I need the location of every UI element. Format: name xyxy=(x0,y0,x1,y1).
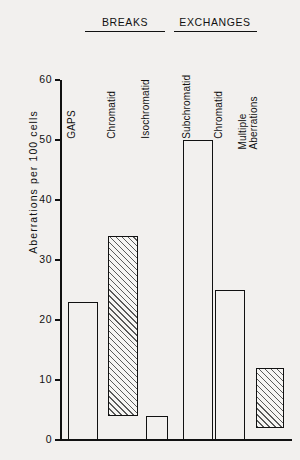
column-label-4: Chromatid xyxy=(214,91,225,139)
group-header-exchanges-label: EXCHANGES xyxy=(172,16,258,28)
y-tick-0 xyxy=(55,439,60,441)
column-label-1-line1: Chromatid xyxy=(106,91,117,139)
column-label-2-line1: Isochromatid xyxy=(140,79,151,139)
column-label-3: Subchromatid xyxy=(182,75,193,139)
y-tick-50 xyxy=(55,139,60,141)
column-label-4-line1: Chromatid xyxy=(213,91,224,139)
y-tick-label-30: 30 xyxy=(22,253,52,265)
group-rule-breaks xyxy=(85,31,165,32)
group-header-breaks-label: BREAKS xyxy=(85,16,165,28)
y-tick-30 xyxy=(55,259,60,261)
column-label-1: Chromatid xyxy=(107,91,118,139)
y-tick-label-0: 0 xyxy=(22,433,52,445)
y-tick-label-40: 40 xyxy=(22,193,52,205)
bar-1-hatched-segment xyxy=(108,236,138,416)
y-axis-title: Aberrations per 100 cells xyxy=(27,87,39,277)
bar-2 xyxy=(146,416,168,440)
y-tick-label-60: 60 xyxy=(22,73,52,85)
chart-figure: BREAKS EXCHANGES Aberrations per 100 cel… xyxy=(0,0,300,460)
bar-3 xyxy=(183,140,213,440)
y-tick-label-20: 20 xyxy=(22,313,52,325)
y-tick-10 xyxy=(55,379,60,381)
group-header-breaks: BREAKS xyxy=(85,16,165,28)
column-label-5-line1: Multiple xyxy=(237,114,248,150)
column-label-0-line1: GAPS xyxy=(66,110,77,139)
y-tick-20 xyxy=(55,319,60,321)
y-axis-line xyxy=(60,80,62,441)
group-header-exchanges: EXCHANGES xyxy=(172,16,258,28)
column-label-5-line2: Aberrations xyxy=(249,96,260,149)
column-label-5: MultipleAberrations xyxy=(238,96,260,149)
y-tick-label-50: 50 xyxy=(22,133,52,145)
column-label-3-line1: Subchromatid xyxy=(181,75,192,139)
bar-4 xyxy=(215,290,245,440)
bar-0 xyxy=(68,302,98,440)
y-tick-40 xyxy=(55,199,60,201)
column-label-0: GAPS xyxy=(67,110,78,139)
y-tick-60 xyxy=(55,79,60,81)
group-rule-exchanges xyxy=(174,31,257,32)
y-tick-label-10: 10 xyxy=(22,373,52,385)
column-label-2: Isochromatid xyxy=(141,79,152,139)
bar-5-hatched-segment xyxy=(256,368,284,428)
